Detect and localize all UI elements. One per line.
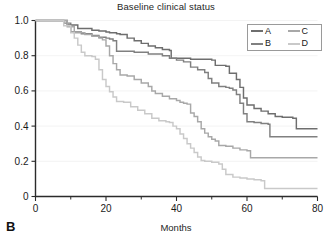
legend-item-a: A xyxy=(248,25,285,38)
legend-label-a: A xyxy=(265,27,271,36)
y-tick-label: 1.0 xyxy=(15,15,29,26)
legend-swatch-d xyxy=(288,43,300,45)
legend-swatch-b xyxy=(251,43,263,45)
x-tick-label: 80 xyxy=(312,203,324,214)
x-tick-label: 60 xyxy=(241,203,253,214)
legend: A C B D xyxy=(247,24,322,51)
legend-label-d: D xyxy=(302,39,309,48)
legend-label-c: C xyxy=(302,27,309,36)
legend-swatch-c xyxy=(288,30,300,32)
kaplan-meier-figure: Baseline clinical status 00.20.40.60.81.… xyxy=(0,0,332,240)
x-tick-label: 40 xyxy=(171,203,183,214)
legend-item-b: B xyxy=(248,38,285,51)
legend-item-d: D xyxy=(285,38,322,51)
legend-item-c: C xyxy=(285,25,322,38)
y-tick-label: 0.6 xyxy=(15,85,29,96)
legend-swatch-a xyxy=(251,30,263,32)
x-tick-label: 0 xyxy=(33,203,39,214)
legend-label-b: B xyxy=(265,39,271,48)
y-tick-label: 0.2 xyxy=(15,156,29,167)
y-tick-label: 0.4 xyxy=(15,121,29,132)
panel-label: B xyxy=(6,220,15,234)
x-axis-label: Months xyxy=(35,222,317,233)
x-tick-label: 20 xyxy=(100,203,112,214)
y-tick-label: 0.8 xyxy=(15,50,29,61)
y-tick-label: 0 xyxy=(23,191,29,202)
